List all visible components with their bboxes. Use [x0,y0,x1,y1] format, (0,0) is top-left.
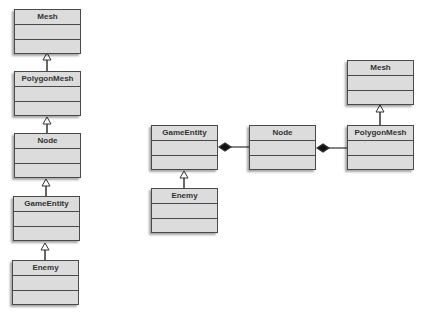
attributes-compartment [15,149,80,164]
class-name: Mesh [348,61,413,76]
class-name: GameEntity [152,126,217,141]
attributes-compartment [15,25,80,40]
attributes-compartment [15,87,80,102]
class-box-polygonmesh-right[interactable]: PolygonMesh [347,125,414,170]
generalization-arrow-gameentity-to-node [42,179,50,196]
class-box-enemy-left[interactable]: Enemy [12,260,79,305]
class-box-gameentity-right[interactable]: GameEntity [151,125,218,170]
generalization-arrow-enemy-to-gameentity [41,243,49,260]
operations-compartment [15,40,80,53]
class-box-node-left[interactable]: Node [14,133,81,178]
attributes-compartment [152,204,217,219]
class-box-node-right[interactable]: Node [249,125,316,170]
generalization-arrow-node-to-polygonmesh [43,117,51,133]
operations-compartment [13,291,78,304]
operations-compartment [15,164,80,177]
operations-compartment [15,102,80,115]
class-box-gameentity-left[interactable]: GameEntity [13,196,80,241]
generalization-arrow-polygonmesh-to-mesh [43,53,51,71]
attributes-compartment [250,141,315,156]
class-name: Mesh [15,10,80,25]
generalization-arrow-enemy-to-gameentity-right [180,171,188,188]
attributes-compartment [348,141,413,156]
class-name: PolygonMesh [348,126,413,141]
uml-diagram-canvas: Mesh PolygonMesh Node GameEntity Enemy G… [0,0,421,317]
class-name: Node [250,126,315,141]
attributes-compartment [152,141,217,156]
composition-node-polygonmesh [317,144,347,152]
attributes-compartment [14,212,79,227]
attributes-compartment [13,276,78,291]
class-box-polygonmesh-left[interactable]: PolygonMesh [14,71,81,116]
attributes-compartment [348,76,413,91]
operations-compartment [152,219,217,232]
operations-compartment [348,91,413,104]
class-name: GameEntity [14,197,79,212]
operations-compartment [152,156,217,169]
operations-compartment [250,156,315,169]
generalization-arrow-polygonmesh-to-mesh-right [376,105,384,125]
operations-compartment [348,156,413,169]
class-name: Enemy [13,261,78,276]
class-name: Node [15,134,80,149]
composition-gameentity-node [219,143,249,151]
class-name: PolygonMesh [15,72,80,87]
operations-compartment [14,227,79,240]
class-box-mesh-right[interactable]: Mesh [347,60,414,105]
class-box-mesh-left[interactable]: Mesh [14,9,81,54]
class-name: Enemy [152,189,217,204]
class-box-enemy-right[interactable]: Enemy [151,188,218,233]
